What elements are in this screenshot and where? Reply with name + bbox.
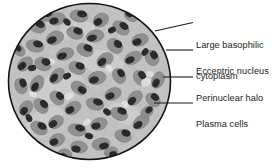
micrograph-field [7,2,172,161]
plasma-cell-histology-figure: Large basophilic cytoplasm Eccentric nuc… [0,0,280,168]
micrograph-svg [7,2,172,161]
label-line-1: Plasma cells [196,119,248,130]
label-plasma-cells: Plasma cells [196,98,248,151]
